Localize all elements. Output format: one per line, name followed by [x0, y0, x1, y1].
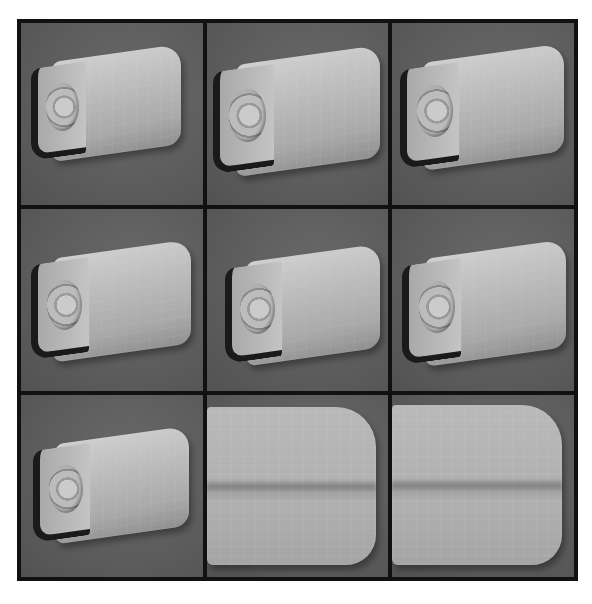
camera-model-closeup — [392, 405, 574, 565]
render-panel-1 — [21, 23, 203, 205]
camera-model — [33, 435, 189, 535]
camera-model — [225, 253, 381, 357]
render-panel-8-closeup — [207, 395, 389, 577]
render-panel-2 — [207, 23, 389, 205]
render-panel-4 — [21, 209, 203, 391]
camera-model-closeup — [207, 407, 389, 565]
camera-model — [31, 249, 191, 353]
render-panel-6 — [392, 209, 574, 391]
camera-model — [400, 53, 564, 161]
render-panel-7 — [21, 395, 203, 577]
render-panel-3 — [392, 23, 574, 205]
camera-model — [31, 53, 181, 153]
camera-model — [213, 55, 381, 167]
camera-model — [402, 249, 566, 357]
render-panel-5 — [207, 209, 389, 391]
render-grid — [17, 19, 578, 581]
figure-caption — [14, 596, 584, 604]
render-panel-9-closeup — [392, 395, 574, 577]
